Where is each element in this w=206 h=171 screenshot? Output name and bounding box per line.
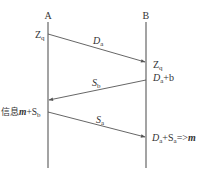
diagram-canvas: A B Zq Da Zq Da+b Sb 信息m+Sb Sa Da+Sa=>m xyxy=(0,0,206,171)
message-sb-label: Sb xyxy=(92,77,101,90)
message-da-label: Da xyxy=(92,35,104,48)
participant-a-label: A xyxy=(45,10,53,21)
sequence-diagram: A B Zq Da Zq Da+b Sb 信息m+Sb Sa Da+Sa=>m xyxy=(0,0,206,171)
b-zq-label: Zq xyxy=(153,59,163,72)
a-zq-label: Zq xyxy=(35,29,45,42)
participant-b-label: B xyxy=(143,10,150,21)
b-result-label: Da+Sa=>m xyxy=(151,132,196,145)
a-message-label: 信息m+Sb xyxy=(1,106,41,119)
b-da-b-label: Da+b xyxy=(152,72,174,85)
